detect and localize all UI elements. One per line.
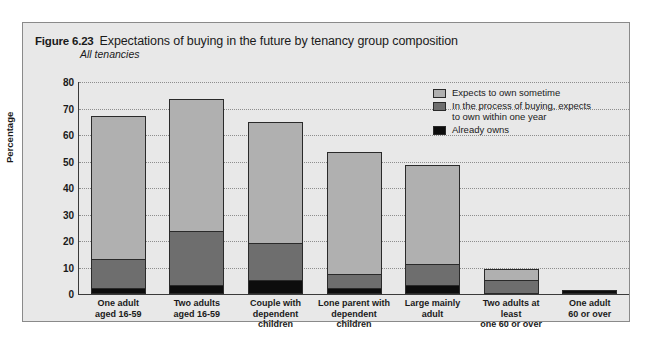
figure-panel: Figure 6.23Expectations of buying in the…: [22, 22, 630, 322]
figure-number: Figure 6.23: [35, 35, 94, 47]
bar-group[interactable]: [169, 82, 224, 294]
y-tick-label: 60: [50, 130, 74, 141]
legend-item[interactable]: Expects to own sometime: [433, 87, 623, 99]
bar-segment[interactable]: [484, 281, 539, 294]
bar-group[interactable]: [248, 82, 303, 294]
y-axis-title: Percentage: [4, 112, 15, 163]
x-axis-label: Two adults at leastone 60 or over: [472, 298, 551, 330]
legend-item[interactable]: Already owns: [433, 124, 623, 136]
legend-label: Expects to own sometime: [452, 87, 560, 99]
bar-segment[interactable]: [169, 99, 224, 232]
y-tick-label: 70: [50, 103, 74, 114]
figure-heading: Figure 6.23Expectations of buying in the…: [35, 31, 458, 49]
bar-segment[interactable]: [327, 275, 382, 288]
bar-segment[interactable]: [405, 165, 460, 264]
bar-segment[interactable]: [327, 152, 382, 275]
y-tick-label: 40: [50, 183, 74, 194]
bar-segment[interactable]: [248, 281, 303, 294]
x-axis-label: Lone parent withdependent children: [315, 298, 394, 330]
legend-item[interactable]: In the process of buying, expectsto own …: [433, 100, 623, 123]
x-axis-label: One adult60 or over: [550, 298, 629, 319]
y-tick-label: 30: [50, 209, 74, 220]
bar-segment[interactable]: [91, 289, 146, 294]
bar-segment[interactable]: [169, 286, 224, 294]
bar-segment[interactable]: [327, 289, 382, 294]
chart-legend: Expects to own sometimeIn the process of…: [433, 87, 623, 136]
legend-label: Already owns: [452, 124, 509, 136]
bar-segment[interactable]: [484, 269, 539, 281]
bar-segment[interactable]: [562, 291, 617, 294]
bar-group[interactable]: [327, 82, 382, 294]
y-tick-label: 50: [50, 156, 74, 167]
y-tick-label: 10: [50, 262, 74, 273]
bar-segment[interactable]: [405, 265, 460, 286]
y-axis-ticks: 01020304050607080: [47, 82, 74, 294]
y-tick-label: 0: [50, 289, 74, 300]
x-axis-label: Large mainlyadult: [393, 298, 472, 319]
bar-group[interactable]: [91, 82, 146, 294]
bar-segment[interactable]: [91, 260, 146, 289]
bar-segment[interactable]: [562, 290, 617, 291]
x-axis-labels: One adultaged 16-59Two adultsaged 16-59C…: [79, 298, 629, 322]
figure-title: Expectations of buying in the future by …: [100, 34, 458, 48]
bar-segment[interactable]: [248, 122, 303, 244]
y-tick-label: 20: [50, 236, 74, 247]
bar-segment[interactable]: [91, 116, 146, 259]
figure-subtitle: All tenancies: [80, 48, 140, 60]
legend-swatch-icon: [433, 89, 446, 98]
y-tick-label: 80: [50, 77, 74, 88]
legend-swatch-icon: [433, 126, 446, 135]
legend-swatch-icon: [433, 102, 446, 111]
x-axis-label: Couple withdependent children: [236, 298, 315, 330]
x-axis-label: Two adultsaged 16-59: [158, 298, 237, 319]
x-axis-line: [78, 294, 629, 295]
bar-segment[interactable]: [405, 286, 460, 294]
x-axis-label: One adultaged 16-59: [79, 298, 158, 319]
legend-label: In the process of buying, expectsto own …: [452, 100, 591, 123]
bar-segment[interactable]: [169, 232, 224, 286]
bar-segment[interactable]: [248, 244, 303, 281]
